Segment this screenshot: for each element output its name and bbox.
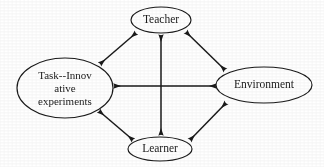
edge-group (99, 32, 226, 140)
edge-task-learner (99, 111, 133, 140)
interaction-diagram: Teacher Task--Innov ative experiments En… (0, 0, 324, 167)
node-environment: Environment (216, 67, 312, 103)
node-teacher-label: Teacher (143, 13, 179, 25)
node-task-label-line3: experiments (38, 95, 92, 107)
node-learner-label: Learner (142, 142, 178, 154)
edge-teacher-environment (186, 32, 225, 70)
node-task-label-line2: ative (54, 82, 75, 94)
node-environment-label: Environment (234, 78, 295, 90)
edge-learner-environment (190, 103, 226, 140)
node-task-label-line1: Task--Innov (38, 69, 92, 81)
diagram-canvas: Teacher Task--Innov ative experiments En… (0, 0, 324, 167)
node-learner: Learner (128, 137, 192, 161)
node-teacher: Teacher (131, 7, 191, 33)
node-task: Task--Innov ative experiments (17, 58, 113, 118)
edge-task-teacher (100, 33, 136, 64)
